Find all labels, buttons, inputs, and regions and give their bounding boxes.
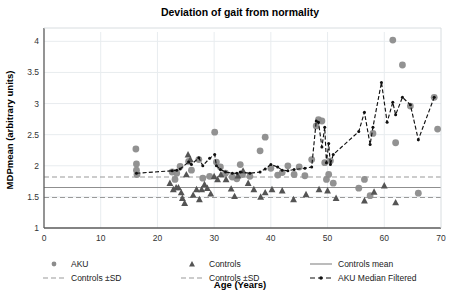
y-axis-label: MDPmean (arbitrary units) — [4, 71, 15, 190]
legend-label: AKU — [71, 259, 88, 269]
figure-background — [0, 0, 455, 293]
svg-text:30: 30 — [209, 233, 219, 243]
svg-text:2.5: 2.5 — [27, 130, 39, 140]
svg-text:10: 10 — [96, 233, 106, 243]
legend-label: AKU Median Filtered — [338, 273, 417, 283]
svg-text:4: 4 — [34, 36, 39, 46]
svg-text:2: 2 — [34, 161, 39, 171]
svg-text:40: 40 — [266, 233, 276, 243]
svg-text:3: 3 — [34, 99, 39, 109]
page-title: Deviation of gait from normality — [161, 6, 319, 18]
legend-label: Controls ±SD — [209, 273, 260, 283]
svg-text:60: 60 — [380, 233, 390, 243]
svg-text:0: 0 — [42, 233, 47, 243]
svg-text:1: 1 — [34, 223, 39, 233]
svg-text:70: 70 — [436, 233, 446, 243]
legend-label: Controls ±SD — [71, 273, 122, 283]
svg-text:20: 20 — [153, 233, 163, 243]
svg-text:3.5: 3.5 — [27, 67, 39, 77]
chart-figure: Deviation of gait from normality 11.522.… — [0, 0, 455, 293]
legend-label: Controls — [209, 259, 241, 269]
svg-text:50: 50 — [323, 233, 333, 243]
legend-label: Controls mean — [338, 259, 394, 269]
svg-text:1.5: 1.5 — [27, 192, 39, 202]
chart-canvas: Deviation of gait from normality 11.522.… — [0, 0, 455, 293]
